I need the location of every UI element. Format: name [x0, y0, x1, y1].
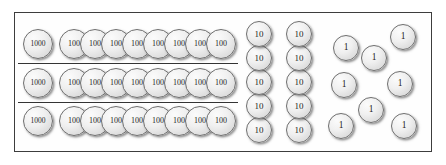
coin-value-label: 100	[110, 40, 122, 48]
coin-ten-3[interactable]: 10	[246, 69, 272, 95]
row-divider-1	[18, 63, 238, 64]
coin-hundred-row2-8[interactable]: 100	[206, 68, 236, 98]
coin-value-label: 10	[255, 29, 264, 38]
coin-value-label: 100	[173, 117, 185, 125]
coin-ten-6[interactable]: 10	[286, 21, 312, 47]
coin-value-label: 100	[152, 117, 164, 125]
coin-value-label: 1	[402, 121, 407, 131]
coin-value-label: 1	[372, 53, 377, 63]
coin-value-label: 100	[215, 79, 227, 87]
coin-value-label: 100	[68, 117, 80, 125]
coin-value-label: 1000	[31, 79, 46, 87]
coin-value-label: 100	[215, 40, 227, 48]
coin-ten-4[interactable]: 10	[246, 93, 272, 119]
coin-ten-7[interactable]: 10	[286, 45, 312, 71]
coin-value-label: 100	[110, 79, 122, 87]
coin-value-label: 100	[68, 79, 80, 87]
coin-diagram-canvas: 1000100100100100100100100100100010010010…	[0, 0, 446, 165]
coin-one-2[interactable]: 1	[333, 35, 359, 61]
coin-value-label: 10	[295, 101, 304, 110]
coin-value-label: 1000	[31, 40, 46, 48]
coin-one-1[interactable]: 1	[390, 24, 416, 50]
coin-value-label: 1	[344, 43, 349, 53]
coin-value-label: 1	[342, 80, 347, 90]
coin-ten-5[interactable]: 10	[246, 117, 272, 143]
coin-value-label: 100	[194, 117, 206, 125]
coin-thousand-row2[interactable]: 1000	[23, 68, 53, 98]
coin-value-label: 10	[295, 125, 304, 134]
coin-ten-1[interactable]: 10	[246, 21, 272, 47]
coin-value-label: 100	[152, 40, 164, 48]
coin-value-label: 100	[131, 40, 143, 48]
coin-one-7[interactable]: 1	[328, 113, 354, 139]
coin-ten-10[interactable]: 10	[286, 117, 312, 143]
coin-value-label: 100	[89, 79, 101, 87]
coin-value-label: 100	[194, 40, 206, 48]
coin-value-label: 10	[295, 77, 304, 86]
coin-value-label: 1000	[31, 117, 46, 125]
coin-value-label: 1	[369, 105, 374, 115]
coin-value-label: 100	[173, 40, 185, 48]
coin-value-label: 100	[173, 79, 185, 87]
coin-value-label: 1	[398, 79, 403, 89]
coin-value-label: 10	[255, 53, 264, 62]
coin-value-label: 10	[255, 125, 264, 134]
coin-value-label: 10	[255, 101, 264, 110]
coin-one-4[interactable]: 1	[331, 72, 357, 98]
coin-value-label: 100	[152, 79, 164, 87]
coin-value-label: 100	[215, 117, 227, 125]
coin-ten-8[interactable]: 10	[286, 69, 312, 95]
coin-value-label: 100	[194, 79, 206, 87]
coin-value-label: 100	[89, 40, 101, 48]
coin-value-label: 10	[295, 53, 304, 62]
coin-thousand-row1[interactable]: 1000	[23, 29, 53, 59]
coin-one-6[interactable]: 1	[358, 97, 384, 123]
coin-value-label: 1	[339, 121, 344, 131]
coin-one-5[interactable]: 1	[387, 71, 413, 97]
diagram-frame: 1000100100100100100100100100100010010010…	[14, 12, 432, 152]
coin-hundred-row3-8[interactable]: 100	[206, 106, 236, 136]
row-divider-2	[18, 102, 238, 103]
coin-one-8[interactable]: 1	[391, 113, 417, 139]
coin-value-label: 10	[295, 29, 304, 38]
coin-value-label: 100	[89, 117, 101, 125]
coin-hundred-row1-8[interactable]: 100	[206, 29, 236, 59]
coin-thousand-row3[interactable]: 1000	[23, 106, 53, 136]
coin-value-label: 100	[110, 117, 122, 125]
coin-value-label: 100	[131, 79, 143, 87]
coin-value-label: 10	[255, 77, 264, 86]
coin-value-label: 1	[401, 32, 406, 42]
coin-ten-2[interactable]: 10	[246, 45, 272, 71]
coin-ten-9[interactable]: 10	[286, 93, 312, 119]
coin-value-label: 100	[131, 117, 143, 125]
coin-one-3[interactable]: 1	[361, 45, 387, 71]
coin-value-label: 100	[68, 40, 80, 48]
